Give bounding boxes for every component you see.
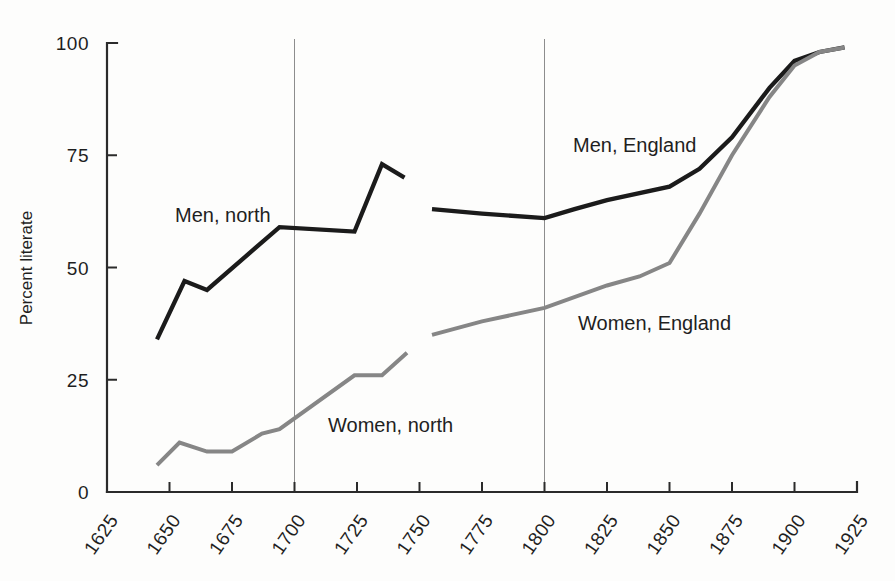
literacy-line-chart: 0255075100 16251650167517001725175017751… xyxy=(0,0,895,581)
x-tick-label-1900: 1900 xyxy=(767,510,809,558)
y-tick-label-50: 50 xyxy=(67,258,89,279)
x-tick-label-1725: 1725 xyxy=(330,510,372,558)
series-line-men-north xyxy=(157,164,405,339)
series-label-group: Men, northWomen, northMen, EnglandWomen,… xyxy=(175,134,731,436)
series-label-women-england: Women, England xyxy=(578,312,731,334)
series-label-women-north: Women, north xyxy=(328,414,453,436)
x-tick-label-1800: 1800 xyxy=(517,510,559,558)
y-tick-label-0: 0 xyxy=(78,482,89,503)
x-tick-label-1625: 1625 xyxy=(80,510,122,558)
x-tick-label-1850: 1850 xyxy=(642,510,684,558)
x-tick-label-1775: 1775 xyxy=(455,510,497,558)
chart-canvas: 0255075100 16251650167517001725175017751… xyxy=(0,0,895,581)
x-tick-label-1750: 1750 xyxy=(392,510,434,558)
series-line-men-england xyxy=(432,47,845,218)
y-tick-label-group: 0255075100 xyxy=(56,33,89,503)
x-tick-label-1925: 1925 xyxy=(830,510,872,558)
series-line-women-england xyxy=(432,47,845,334)
x-tick-label-group: 1625165016751700172517501775180018251850… xyxy=(80,510,872,558)
y-axis-title: Percent literate xyxy=(17,211,36,325)
x-tick-label-1650: 1650 xyxy=(142,510,184,558)
series-label-men-england: Men, England xyxy=(573,134,696,156)
x-tick-group xyxy=(170,482,795,492)
x-tick-label-1825: 1825 xyxy=(580,510,622,558)
y-tick-label-100: 100 xyxy=(56,33,89,54)
y-tick-group xyxy=(107,155,117,380)
axes-group xyxy=(107,43,857,492)
y-tick-label-25: 25 xyxy=(67,370,89,391)
x-tick-label-1875: 1875 xyxy=(705,510,747,558)
series-group xyxy=(157,47,845,465)
x-tick-label-1675: 1675 xyxy=(205,510,247,558)
x-tick-label-1700: 1700 xyxy=(267,510,309,558)
series-label-men-north: Men, north xyxy=(175,204,271,226)
y-tick-label-75: 75 xyxy=(67,145,89,166)
series-line-women-north xyxy=(157,353,407,465)
